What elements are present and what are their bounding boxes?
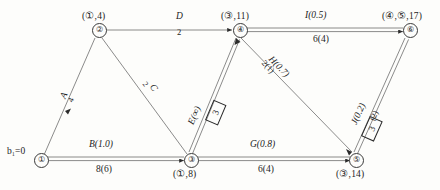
node-4-glyph: ④ [237, 25, 244, 34]
edge-I-label: I(0.5) [305, 10, 326, 20]
node-3[interactable]: ③ [184, 153, 199, 168]
node-5-glyph: ⑤ [353, 155, 360, 164]
node-3-label: (①,8) [173, 168, 196, 179]
edge-A-arrow [65, 109, 71, 115]
edge-D-label: D [176, 11, 183, 21]
node-2-glyph: ② [96, 25, 103, 34]
edge-J-flow-value: 3 [366, 125, 377, 133]
node-1[interactable]: ① [34, 153, 49, 168]
edge-H-line [241, 38, 352, 152]
edge-E-line-left [189, 38, 236, 152]
node-4-label: (③,11) [221, 10, 249, 21]
node-6-glyph: ⑥ [407, 25, 414, 34]
edge-G-capacity: 6(4) [258, 164, 274, 174]
node-6[interactable]: ⑥ [403, 23, 418, 38]
node-3-glyph: ③ [188, 155, 195, 164]
network-diagram-canvas: ① ② ③ ④ ⑤ ⑥ b₁=0 (①,4) (①,8) (③,11) (③,1… [0, 0, 440, 190]
edge-B-capacity: 8(6) [96, 164, 112, 174]
edge-G-label: G(0.8) [250, 139, 275, 149]
node-2-label: (①,4) [82, 10, 105, 21]
edge-C-line [102, 38, 187, 154]
edge-D-capacity: 2 [177, 27, 181, 37]
edge-E-line-right [193, 39, 240, 153]
source-potential-label: b₁=0 [7, 146, 25, 156]
node-5[interactable]: ⑤ [349, 153, 364, 168]
edge-B-label: B(1.0) [89, 139, 113, 149]
edge-I-capacity: 6(4) [313, 34, 329, 44]
node-4[interactable]: ④ [233, 23, 248, 38]
edge-E-flow-value: 3 [210, 109, 221, 117]
node-1-glyph: ① [38, 155, 45, 164]
node-2[interactable]: ② [92, 23, 107, 38]
node-5-label: (③,14) [336, 168, 364, 179]
node-6-label: (④,⑤,17) [382, 10, 422, 21]
